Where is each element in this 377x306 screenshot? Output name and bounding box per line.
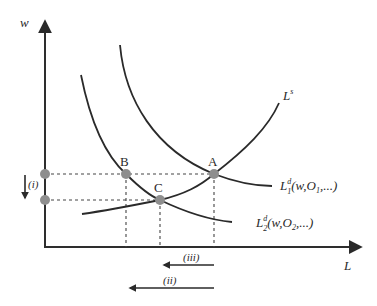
demand-curve-1-label: Ld1(w,O1,...) xyxy=(279,177,337,196)
labor-demand-curve-1 xyxy=(120,45,272,186)
point-a-label: A xyxy=(208,154,218,169)
labor-market-diagram: w L Ls Ld1(w,O1,...) Ld2(w,O2,...) A B C… xyxy=(0,0,377,306)
wage-shift-label: (i) xyxy=(28,178,39,191)
employment-total-shift-label: (ii) xyxy=(163,274,177,287)
axes: w L xyxy=(20,15,360,273)
wage-a-axis-point xyxy=(40,169,50,179)
wage-c-axis-point xyxy=(40,195,50,205)
point-b-label: B xyxy=(120,154,129,169)
employment-partial-shift-label: (iii) xyxy=(183,251,200,264)
guide-lines xyxy=(45,174,214,247)
point-c-label: C xyxy=(154,180,163,195)
supply-curve-label: Ls xyxy=(282,87,293,103)
point-b xyxy=(121,169,131,179)
point-c xyxy=(155,195,165,205)
demand-curve-2-label: Ld2(w,O2,...) xyxy=(255,214,313,233)
equilibrium-points: A B C xyxy=(40,154,219,205)
point-a xyxy=(209,169,219,179)
x-axis-label: L xyxy=(343,258,351,273)
y-axis-label: w xyxy=(20,15,29,30)
